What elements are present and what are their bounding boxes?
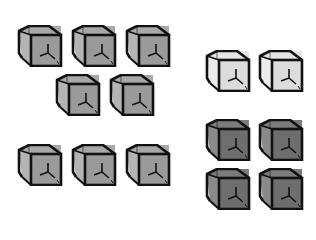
cube-icon [17, 144, 63, 186]
cube-icon [205, 119, 251, 161]
cube-icon [205, 168, 251, 210]
cube-icon [125, 144, 171, 186]
cube-icon [258, 119, 304, 161]
cube-icon [109, 74, 155, 116]
cube-icon [71, 25, 117, 67]
cube-icon [125, 25, 171, 67]
cube-icon [205, 50, 251, 92]
cube-icon [17, 25, 63, 67]
cube-icon [258, 50, 304, 92]
cube-icon [258, 168, 304, 210]
cube-icon [71, 144, 117, 186]
cube-icon [55, 74, 101, 116]
